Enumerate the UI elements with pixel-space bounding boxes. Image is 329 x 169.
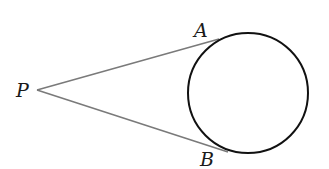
label-b: B <box>199 148 214 169</box>
tangent-segment-pa <box>37 39 219 90</box>
tangent-segment-pb <box>37 90 228 152</box>
circle <box>188 33 308 153</box>
tangent-diagram: P A B <box>0 0 329 169</box>
label-p: P <box>15 79 30 101</box>
label-a: A <box>192 19 208 41</box>
